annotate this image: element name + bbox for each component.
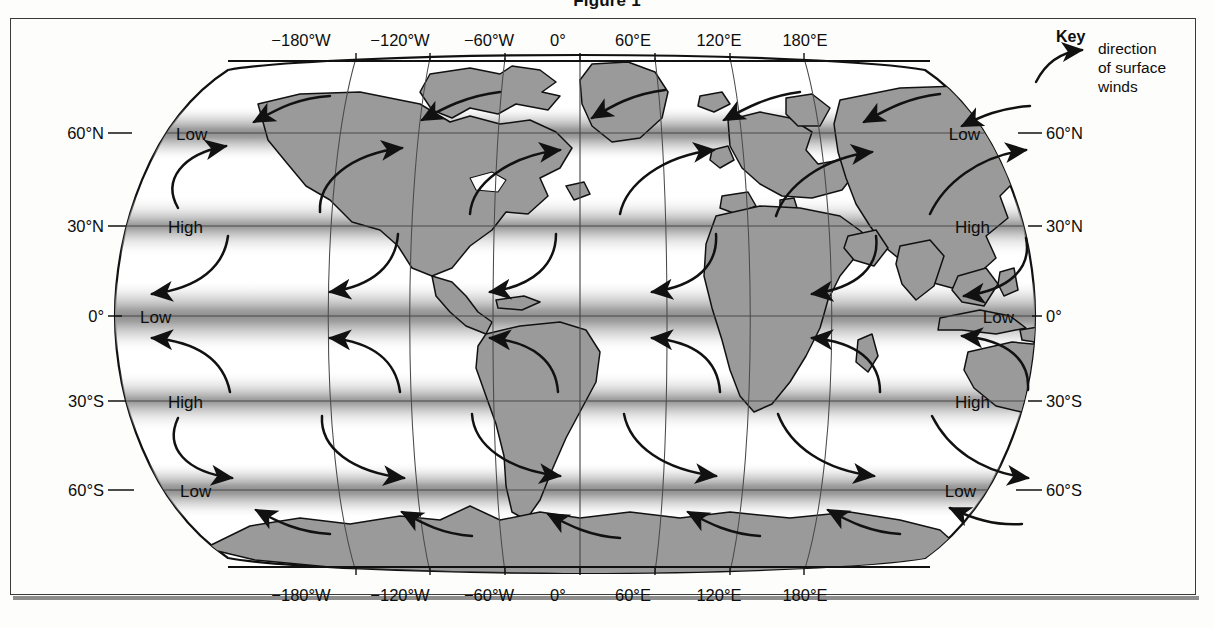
pressure-label: Low bbox=[949, 125, 981, 144]
latitude-label-left: 30°S bbox=[68, 392, 104, 410]
pressure-label: High bbox=[955, 218, 990, 237]
longitude-labels-top: −180°W −120°W −60°W 0° 60°E 120°E 180°E bbox=[271, 31, 827, 49]
longitude-label-bottom: 180°E bbox=[782, 586, 827, 604]
key-heading: Key bbox=[1056, 28, 1085, 45]
key-line: direction bbox=[1098, 40, 1157, 57]
key-box: Key direction of surface winds bbox=[1036, 28, 1166, 95]
longitude-label-bottom: 0° bbox=[550, 586, 566, 604]
pressure-label: Low bbox=[945, 482, 977, 501]
pressure-label: Low bbox=[180, 482, 212, 501]
longitude-label-bottom: −60°W bbox=[464, 586, 515, 604]
key-line: winds bbox=[1097, 78, 1138, 95]
longitude-label-top: −60°W bbox=[464, 31, 515, 49]
latitude-label-left: 60°N bbox=[67, 124, 104, 142]
latitude-label-left: 30°N bbox=[67, 217, 104, 235]
pressure-label: High bbox=[168, 393, 203, 412]
longitude-label-bottom: 120°E bbox=[696, 586, 741, 604]
latitude-label-right: 30°N bbox=[1046, 217, 1083, 235]
latitude-label-right: 30°S bbox=[1046, 392, 1082, 410]
landmass-new-zealand bbox=[1082, 412, 1108, 450]
latitude-label-right: 60°N bbox=[1046, 124, 1083, 142]
longitude-label-bottom: −180°W bbox=[271, 586, 331, 604]
latitude-labels-left: 60°N 30°N 0° 30°S 60°S bbox=[67, 124, 104, 499]
latitude-labels-right: 60°N 30°N 0° 30°S 60°S bbox=[1046, 124, 1083, 499]
longitude-label-bottom: −120°W bbox=[370, 586, 430, 604]
longitude-label-top: 0° bbox=[550, 31, 566, 49]
curved-arrow-icon bbox=[1036, 50, 1082, 82]
longitude-label-top: 120°E bbox=[696, 31, 741, 49]
longitude-label-top: 180°E bbox=[782, 31, 827, 49]
latitude-label-left: 0° bbox=[88, 307, 104, 325]
landmass-japan bbox=[1014, 172, 1042, 206]
key-line: of surface bbox=[1098, 59, 1166, 76]
longitude-labels-bottom: −180°W −120°W −60°W 0° 60°E 120°E 180°E bbox=[271, 586, 827, 604]
latitude-label-left: 60°S bbox=[68, 481, 104, 499]
pressure-label: High bbox=[955, 393, 990, 412]
pressure-label: High bbox=[168, 218, 203, 237]
pressure-label: Low bbox=[983, 308, 1015, 327]
longitude-label-top: −120°W bbox=[370, 31, 430, 49]
longitude-label-bottom: 60°E bbox=[615, 586, 651, 604]
latitude-label-right: 60°S bbox=[1046, 481, 1082, 499]
world-wind-map: −180°W −120°W −60°W 0° 60°E 120°E 180°E … bbox=[0, 0, 1214, 628]
longitude-label-top: 60°E bbox=[615, 31, 651, 49]
latitude-label-right: 0° bbox=[1046, 307, 1062, 325]
longitude-label-top: −180°W bbox=[271, 31, 331, 49]
pressure-label: Low bbox=[140, 308, 172, 327]
pressure-label: Low bbox=[176, 125, 208, 144]
